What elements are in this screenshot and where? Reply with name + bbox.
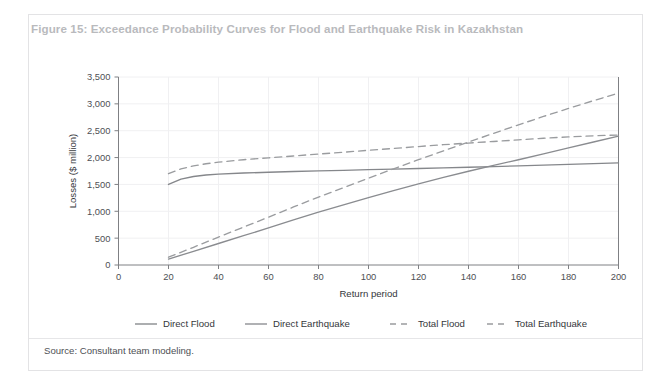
legend-label-total-flood: Total Flood [418,318,465,329]
x-tick-label: 120 [411,271,427,282]
x-tick-label: 20 [163,271,173,282]
series-line-total-flood [169,135,619,174]
chart-legend: Direct FloodDirect EarthquakeTotal Flood… [135,318,587,329]
x-tick-label: 100 [361,271,377,282]
x-tick-label: 40 [213,271,223,282]
series-lines [169,93,619,259]
x-tick-label: 140 [461,271,477,282]
y-tick-label: 3,500 [87,71,110,82]
x-tick-label: 160 [511,271,527,282]
source-note: Source: Consultant team modeling. [44,345,194,356]
y-tick-label: 3,000 [87,98,110,109]
y-tick-label: 1,500 [87,179,110,190]
source-divider [29,338,642,339]
axis-ticks [115,77,619,269]
legend-label-total-earthquake: Total Earthquake [515,318,587,329]
y-tick-label: 2,000 [87,152,110,163]
x-tick-label: 80 [313,271,323,282]
x-tick-label: 200 [611,271,627,282]
series-line-total-earthquake [169,93,619,257]
x-axis-tick-labels: 020406080100120140160180200 [116,271,626,282]
x-tick-label: 180 [561,271,577,282]
grid-lines [119,77,619,265]
legend-label-direct-flood: Direct Flood [163,318,215,329]
exceedance-probability-chart: 05001,0001,5002,0002,5003,0003,500 02040… [0,0,671,388]
x-axis-title: Return period [339,288,397,299]
y-tick-label: 2,500 [87,125,110,136]
series-line-direct-earthquake [169,136,619,259]
y-tick-label: 1,000 [87,206,110,217]
legend-label-direct-earthquake: Direct Earthquake [273,318,350,329]
x-tick-label: 60 [263,271,273,282]
y-tick-label: 500 [95,233,111,244]
chart-svg: 05001,0001,5002,0002,5003,0003,500 02040… [0,0,671,388]
y-tick-label: 0 [105,259,110,270]
y-axis-title: Losses ($ million) [67,134,78,209]
x-tick-label: 0 [116,271,121,282]
series-line-direct-flood [169,163,619,184]
y-axis-tick-labels: 05001,0001,5002,0002,5003,0003,500 [87,71,110,270]
